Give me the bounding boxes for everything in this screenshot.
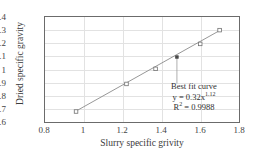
chart-figure: 1.4 1.3 1.2 1.1 1 0.9 0.8 0.7 0.6 0.8 1 … (0, 0, 253, 155)
data-point (154, 67, 158, 71)
y-tick-label: 1 (0, 66, 6, 75)
annotation-title: Best fit curve (149, 81, 239, 92)
y-tick-label: 1.4 (0, 13, 6, 22)
x-tick-label: 1.4 (149, 126, 173, 135)
y-tick-label: 1.3 (0, 26, 6, 35)
y-axis-title: Dried specific gravity (15, 4, 26, 124)
x-tick-label: 1.6 (188, 126, 212, 135)
data-point (74, 110, 78, 114)
data-point (218, 28, 222, 32)
y-tick-label: 0.9 (0, 79, 6, 88)
annotation-equation: y = 0.32x1.12 (149, 92, 239, 103)
y-tick-label: 1.2 (0, 39, 6, 48)
y-tick-label: 0.8 (0, 92, 6, 101)
x-axis-title: Slurry specific grivity (44, 138, 240, 149)
best-fit-annotation: Best fit curve y = 0.32x1.12 R2 = 0.9988 (149, 81, 239, 113)
y-tick-label: 0.6 (0, 118, 6, 127)
x-tick-label: 0.8 (32, 126, 56, 135)
x-tick-label: 1.8 (227, 126, 251, 135)
data-point-highlighted (176, 56, 179, 59)
y-tick-label: 0.7 (0, 105, 6, 114)
annotation-r-squared: R2 = 0.9988 (149, 102, 239, 113)
x-tick-label: 1 (71, 126, 95, 135)
data-point (125, 82, 129, 86)
y-tick-label: 1.1 (0, 52, 6, 61)
plot-area: Best fit curve y = 0.32x1.12 R2 = 0.9988 (44, 16, 240, 123)
x-tick-label: 1.2 (110, 126, 134, 135)
equation-exponent: 1.12 (205, 91, 216, 97)
data-point (198, 42, 202, 46)
